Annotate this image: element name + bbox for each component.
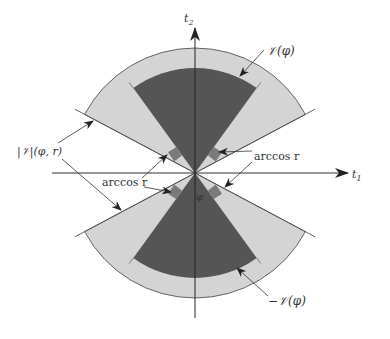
- neighborhood-label: |𝒱|(φ, r): [17, 145, 62, 159]
- cone-diagram: t1 t2 𝒱(φ) −𝒱(φ) |𝒱|(φ, r) arccos r arcc…: [0, 0, 390, 339]
- upper-cone-label: 𝒱(φ): [267, 44, 295, 58]
- arccos-right-label: arccos r: [254, 150, 300, 163]
- phi-label: φ: [196, 191, 203, 202]
- t2-axis-label: t2: [184, 12, 194, 27]
- arccos-left-label: arccos r: [102, 176, 148, 189]
- t1-axis-label: t1: [352, 168, 362, 183]
- lower-cone-label: −𝒱(φ): [268, 294, 306, 308]
